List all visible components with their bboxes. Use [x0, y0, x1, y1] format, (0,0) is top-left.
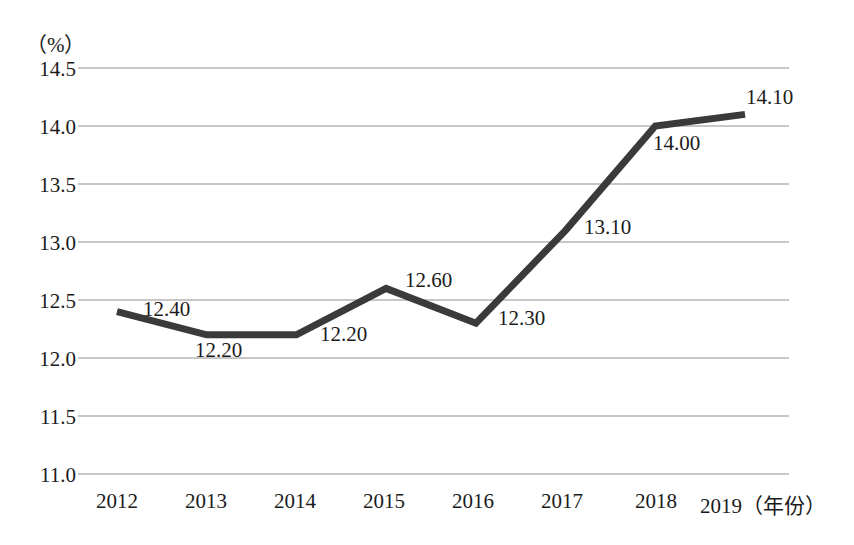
- chart-container: （%） 14.5 14.0 13.5 13.0 12.5 12.0 11.5 1…: [0, 0, 854, 545]
- x-axis-tick-2018: 2018: [606, 489, 706, 514]
- data-label-2013: 12.20: [195, 338, 242, 363]
- data-label-2012: 12.40: [143, 297, 190, 322]
- x-axis-tick-2014: 2014: [245, 489, 345, 514]
- y-axis-tick-13-5: 13.5: [14, 173, 76, 198]
- y-axis-tick-12-0: 12.0: [14, 347, 76, 372]
- y-axis-tick-13-0: 13.0: [14, 231, 76, 256]
- y-axis-tick-12-5: 12.5: [14, 289, 76, 314]
- x-axis-tick-2019-with-unit: 2019（年份）: [700, 489, 826, 519]
- x-axis-tick-2013: 2013: [156, 489, 256, 514]
- x-axis-tick-2016: 2016: [423, 489, 523, 514]
- data-label-2019: 14.10: [746, 85, 793, 110]
- x-axis-tick-2015: 2015: [334, 489, 434, 514]
- y-axis-unit-label: （%）: [26, 28, 86, 58]
- y-axis-tick-11-0: 11.0: [14, 463, 76, 488]
- y-axis-tick-14-5: 14.5: [14, 57, 76, 82]
- data-label-2014: 12.20: [320, 322, 367, 347]
- data-label-2018: 14.00: [653, 131, 700, 156]
- data-label-2017: 13.10: [584, 215, 631, 240]
- y-axis-tick-11-5: 11.5: [14, 405, 76, 430]
- x-axis-tick-2012: 2012: [67, 489, 167, 514]
- y-axis-tick-14-0: 14.0: [14, 115, 76, 140]
- data-label-2015: 12.60: [405, 268, 452, 293]
- x-axis-tick-2017: 2017: [512, 489, 612, 514]
- data-label-2016: 12.30: [498, 306, 545, 331]
- data-series-line: [117, 114, 745, 334]
